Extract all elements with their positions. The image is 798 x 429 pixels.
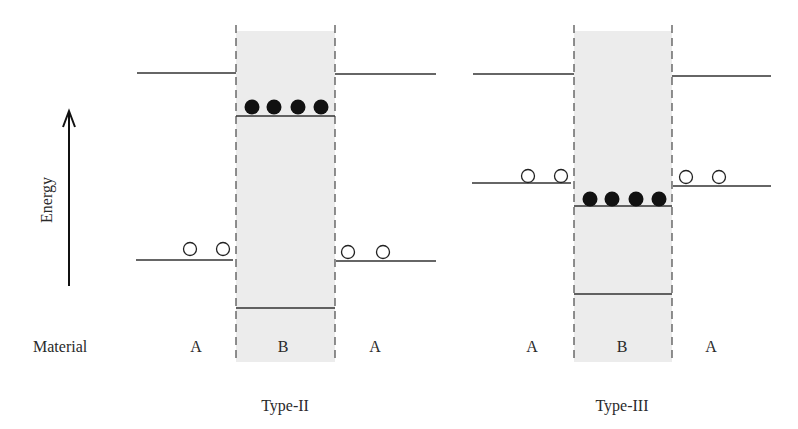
electron-icon	[629, 192, 644, 207]
material-label-a-right: A	[369, 338, 381, 355]
hole-icon	[342, 246, 355, 259]
well-shade-b	[236, 31, 335, 362]
electron-icon	[245, 100, 260, 115]
axis-label-energy: Energy	[38, 177, 56, 223]
material-label-a-left: A	[190, 338, 202, 355]
material-label-b: B	[278, 338, 289, 355]
hole-icon	[377, 246, 390, 259]
hole-icon	[680, 171, 693, 184]
hole-icon	[713, 171, 726, 184]
electron-icon	[605, 192, 620, 207]
material-label-a-left: A	[526, 338, 538, 355]
material-label-a-right: A	[705, 338, 717, 355]
electron-icon	[291, 100, 306, 115]
electron-icon	[267, 100, 282, 115]
electron-icon	[314, 100, 329, 115]
band-alignment-diagram: A B A Type-II A B A Type-III	[0, 0, 798, 429]
panel-title-type-ii: Type-II	[261, 397, 309, 415]
row-label-material: Material	[33, 338, 88, 355]
panel-title-type-iii: Type-III	[595, 397, 648, 415]
panel-type-ii: A B A Type-II	[136, 25, 436, 415]
energy-axis: Energy	[38, 111, 75, 286]
panel-type-iii: A B A Type-III	[472, 25, 771, 415]
material-label-b: B	[617, 338, 628, 355]
hole-icon	[184, 243, 197, 256]
hole-icon	[555, 170, 568, 183]
hole-icon	[522, 170, 535, 183]
electron-icon	[652, 192, 667, 207]
hole-icon	[217, 243, 230, 256]
electron-icon	[583, 192, 598, 207]
